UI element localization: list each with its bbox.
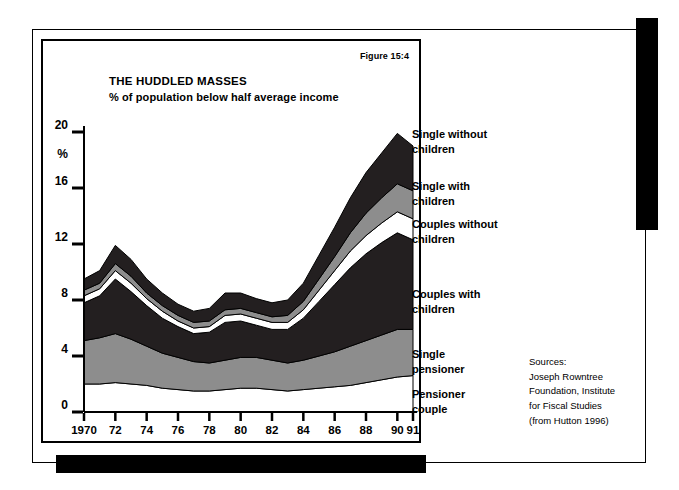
y-tick-label: 20 bbox=[42, 118, 68, 132]
x-tick-label: 90 bbox=[391, 424, 404, 436]
y-axis-unit-label: % bbox=[42, 147, 68, 161]
y-tick-label: 0 bbox=[42, 398, 68, 412]
y-tick-label: 4 bbox=[42, 342, 68, 356]
sources-note: Sources: Joseph Rowntree Foundation, Ins… bbox=[529, 355, 615, 429]
x-tick-label: 1970 bbox=[71, 424, 97, 436]
legend-item: Pensioner couple bbox=[412, 387, 465, 416]
legend-item: Couples without children bbox=[412, 217, 498, 246]
x-tick-label: 72 bbox=[109, 424, 122, 436]
legend-item: Couples with children bbox=[412, 287, 480, 316]
x-tick-label: 91 bbox=[407, 424, 420, 436]
chart-panel: Figure 15:4 THE HUDDLED MASSES % of popu… bbox=[41, 39, 421, 443]
x-tick-label: 88 bbox=[360, 424, 373, 436]
x-tick-label: 86 bbox=[328, 424, 341, 436]
chart-page: Figure 15:4 THE HUDDLED MASSES % of popu… bbox=[0, 0, 679, 490]
y-tick-label: 16 bbox=[42, 174, 68, 188]
y-tick-label: 8 bbox=[42, 286, 68, 300]
x-tick-label: 78 bbox=[203, 424, 216, 436]
x-tick-label: 76 bbox=[172, 424, 185, 436]
legend-item: Single pensioner bbox=[412, 347, 465, 376]
legend-item: Single without children bbox=[412, 127, 487, 156]
legend-item: Single with children bbox=[412, 179, 470, 208]
x-tick-label: 74 bbox=[140, 424, 153, 436]
x-tick-label: 84 bbox=[297, 424, 310, 436]
stacked-area-plot bbox=[43, 41, 423, 445]
x-tick-label: 82 bbox=[266, 424, 279, 436]
y-tick-label: 12 bbox=[42, 230, 68, 244]
x-tick-label: 80 bbox=[234, 424, 247, 436]
